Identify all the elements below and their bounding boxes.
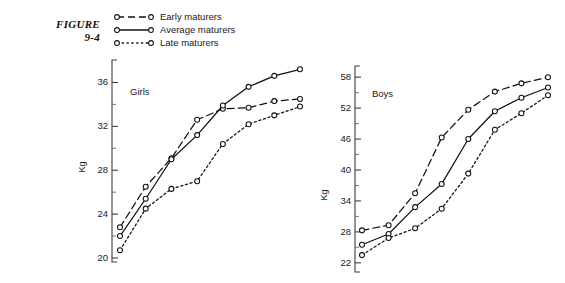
y-tick-label: 28 [340, 226, 351, 237]
data-point [272, 113, 277, 118]
data-point [298, 96, 303, 101]
data-point [546, 75, 551, 80]
data-point [439, 181, 444, 186]
data-point [246, 105, 251, 110]
data-point [360, 253, 365, 258]
chart-legend: Early maturersAverage maturersLate matur… [112, 10, 235, 49]
figure-label-line1: FIGURE [22, 18, 100, 31]
data-point [220, 103, 225, 108]
series-line-early [362, 77, 548, 230]
y-tick-label: 40 [340, 164, 351, 175]
legend-item: Late maturers [112, 36, 235, 49]
data-point [246, 122, 251, 127]
data-point [118, 234, 123, 239]
data-point [298, 67, 303, 72]
y-tick-label: 46 [340, 133, 351, 144]
data-point [492, 89, 497, 94]
data-point [118, 248, 123, 253]
data-point [439, 206, 444, 211]
y-tick-label: 34 [340, 195, 351, 206]
y-tick-label: 20 [97, 252, 108, 263]
data-point [413, 226, 418, 231]
legend-label: Early maturers [160, 11, 222, 22]
data-point [519, 95, 524, 100]
legend-item: Early maturers [112, 10, 235, 23]
legend-item: Average maturers [112, 23, 235, 36]
data-point [272, 73, 277, 78]
data-point [195, 117, 200, 122]
data-point [546, 85, 551, 90]
series-line-average [120, 69, 300, 236]
figure-label: FIGURE 9-4 [22, 18, 100, 44]
legend-swatch-solid [112, 24, 156, 36]
data-point [519, 81, 524, 86]
series-line-late [362, 95, 548, 255]
data-point [195, 133, 200, 138]
data-point [492, 109, 497, 114]
data-point [169, 186, 174, 191]
y-tick-label: 36 [97, 76, 108, 87]
data-point [360, 242, 365, 247]
data-point [413, 191, 418, 196]
panel-title-girls: Girls [130, 86, 150, 97]
data-point [466, 137, 471, 142]
legend-label: Late maturers [160, 37, 219, 48]
data-point [546, 93, 551, 98]
data-point [169, 157, 174, 162]
data-point [466, 171, 471, 176]
series-line-early [120, 99, 300, 227]
data-point [246, 84, 251, 89]
data-point [220, 141, 225, 146]
data-point [492, 127, 497, 132]
data-point [143, 206, 148, 211]
series-line-late [120, 107, 300, 251]
y-axis-unit-label: Kg [319, 189, 329, 200]
data-point [220, 106, 225, 111]
figure-label-line2: 9-4 [22, 31, 100, 44]
data-point [439, 135, 444, 140]
data-point [143, 184, 148, 189]
data-point [386, 231, 391, 236]
data-point [519, 111, 524, 116]
y-axis-unit-label: Kg [77, 161, 87, 172]
legend-swatch-short-dot [112, 37, 156, 49]
legend-label: Average maturers [160, 24, 235, 35]
data-point [195, 179, 200, 184]
y-tick-label: 22 [340, 257, 351, 268]
data-point [272, 99, 277, 104]
data-point [118, 225, 123, 230]
y-tick-label: 32 [97, 120, 108, 131]
data-point [298, 104, 303, 109]
data-point [360, 228, 365, 233]
data-point [466, 107, 471, 112]
data-point [413, 205, 418, 210]
data-point [143, 196, 148, 201]
panel-title-boys: Boys [372, 88, 393, 99]
data-point [386, 223, 391, 228]
legend-swatch-long-dash [112, 11, 156, 23]
y-tick-label: 28 [97, 164, 108, 175]
series-line-average [362, 87, 548, 244]
y-tick-label: 24 [97, 208, 108, 219]
data-point [169, 156, 174, 161]
y-tick-label: 52 [340, 102, 351, 113]
y-tick-label: 58 [340, 71, 351, 82]
data-point [386, 236, 391, 241]
